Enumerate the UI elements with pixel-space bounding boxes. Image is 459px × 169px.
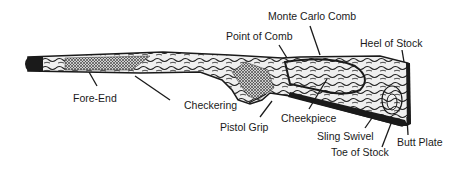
label-toe-of-stock: Toe of Stock <box>331 146 389 158</box>
label-checkering: Checkering <box>184 99 237 111</box>
stock-body <box>25 52 411 126</box>
label-point-of-comb: Point of Comb <box>226 30 293 42</box>
label-butt-plate: Butt Plate <box>397 136 443 148</box>
fore-end-tip <box>25 56 43 71</box>
label-monte-carlo-comb: Monte Carlo Comb <box>268 10 356 22</box>
label-heel-of-stock: Heel of Stock <box>360 37 422 49</box>
label-sling-swivel: Sling Swivel <box>317 130 374 142</box>
label-fore-end: Fore-End <box>73 92 117 104</box>
label-cheekpiece: Cheekpiece <box>281 112 336 124</box>
rifle-stock-diagram: Monte Carlo Comb Point of Comb Heel of S… <box>0 0 459 169</box>
label-pistol-grip: Pistol Grip <box>220 121 268 133</box>
rifle-stock-illustration <box>0 0 459 169</box>
